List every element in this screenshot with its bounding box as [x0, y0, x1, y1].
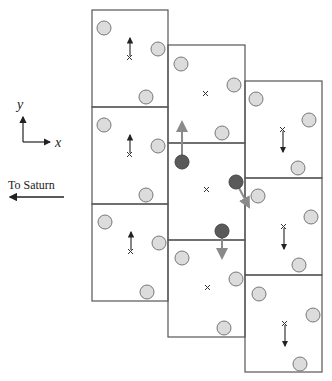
- axes-indicator: y x: [15, 97, 62, 150]
- saturn-label: To Saturn: [8, 178, 55, 192]
- y-axis-label: y: [15, 97, 24, 112]
- shearing-box-diagram: y x To Saturn: [0, 0, 332, 381]
- saturn-direction: To Saturn: [8, 178, 64, 197]
- particles: [97, 21, 320, 371]
- cell-grid: [92, 10, 322, 372]
- highlighted-particles: [175, 122, 249, 258]
- x-axis-label: x: [54, 135, 62, 150]
